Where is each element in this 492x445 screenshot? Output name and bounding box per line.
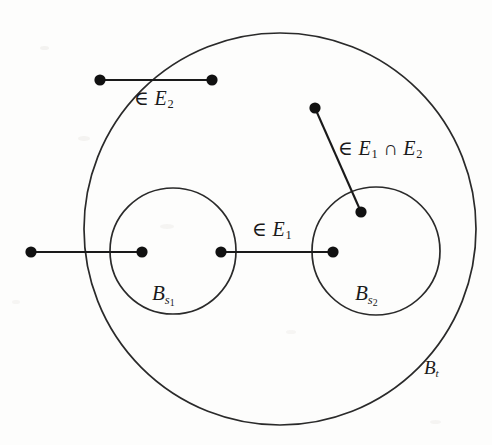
set-diagram-figure: ∈ E2 ∈ E1 ∩ E2 ∈ E1 Bs1 Bs2 Bt [0,0,492,445]
node-e1-in-right [327,246,338,257]
node-cap-outer [309,102,320,113]
edge-label-e1-cap-e2: ∈ E1 ∩ E2 [338,138,423,161]
node-e1-edge-left [215,246,226,257]
node-cap-inner [355,206,366,217]
region-label-right-inner-ball: Bs2 [355,283,378,308]
region-label-left-inner-ball: Bs1 [152,283,175,308]
node-e1-in-left [136,246,147,257]
region-label-outer-ball: Bt [424,358,439,380]
node-e1-far-left [25,246,36,257]
node-e2-right [206,74,217,85]
diagram-canvas [0,0,492,445]
edge-label-e2: ∈ E2 [134,88,174,111]
edge-label-e1: ∈ E1 [252,219,292,242]
node-e2-left [94,74,105,85]
